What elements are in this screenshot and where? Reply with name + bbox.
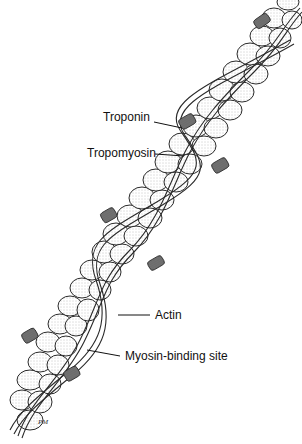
label-troponin: Troponin <box>103 110 150 124</box>
artist-signature: PM <box>38 418 48 426</box>
thin-filament-diagram: Troponin Tropomyosin Actin Myosin-bindin… <box>0 0 302 444</box>
filament-illustration <box>0 0 302 444</box>
label-myosin-binding-site: Myosin-binding site <box>125 349 228 363</box>
label-actin: Actin <box>155 308 182 322</box>
label-tropomyosin: Tropomyosin <box>87 146 156 160</box>
